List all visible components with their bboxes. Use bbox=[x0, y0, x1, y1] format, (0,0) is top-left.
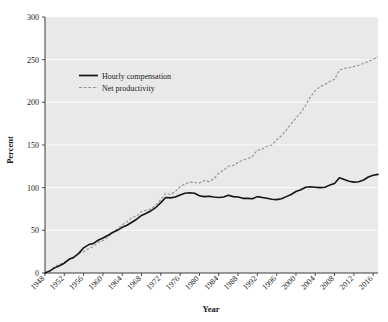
y-tick-label: 300 bbox=[27, 13, 39, 22]
y-tick-label: 100 bbox=[27, 184, 39, 193]
chart-figure: 050100150200250300 194819521956196019641… bbox=[0, 0, 388, 322]
y-tick-label: 50 bbox=[31, 226, 39, 235]
y-tick-label: 150 bbox=[27, 141, 39, 150]
y-tick-label: 200 bbox=[27, 98, 39, 107]
legend-label-hourly-compensation: Hourly compensation bbox=[102, 72, 171, 81]
legend-label-net-productivity: Net productivity bbox=[102, 84, 155, 93]
y-tick-label: 250 bbox=[27, 56, 39, 65]
y-axis-title: Percent bbox=[5, 136, 15, 164]
x-axis-title: Year bbox=[203, 304, 220, 314]
